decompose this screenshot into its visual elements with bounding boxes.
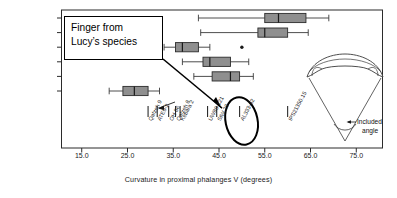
- callout-line-2: Lucy’s species: [71, 35, 157, 49]
- boxplot-pan-paniscus: [194, 72, 253, 81]
- highlight-ellipse-al333-92: [221, 94, 262, 148]
- phalanx-bone-outline: [307, 54, 383, 77]
- box-iqr: [123, 86, 148, 95]
- y-axis-labels: HylobatidaePongoGorillaPan troglodytesPa…: [0, 0, 63, 198]
- included-angle-label-line1: Included: [357, 118, 382, 126]
- box-iqr: [203, 57, 230, 66]
- x-tick-label-2: 35.0: [166, 152, 180, 159]
- angle-arrow-head: [347, 120, 352, 124]
- wedge-left-line: [309, 78, 345, 141]
- x-tick-label-4: 55.0: [258, 152, 272, 159]
- x-tick-label-5: 65.0: [304, 152, 318, 159]
- box-iqr: [265, 13, 306, 22]
- outlier-0: [240, 46, 243, 49]
- boxplot-gorilla: [164, 43, 243, 52]
- box-iqr: [212, 72, 239, 81]
- figure-container: HylobatidaePongoGorillaPan troglodytesPa…: [0, 0, 397, 198]
- included-angle-label-line2: angle: [362, 127, 378, 135]
- callout-box: Finger from Lucy’s species: [64, 16, 163, 60]
- x-tick-label-0: 15.0: [75, 152, 89, 159]
- boxplot-hylobatidae: [198, 13, 328, 22]
- boxplot-pongo: [201, 28, 309, 37]
- x-tick-label-1: 25.0: [121, 152, 135, 159]
- x-tick-label-3: 45.0: [212, 152, 226, 159]
- boxplot-homo-sapiens: [109, 86, 159, 95]
- box-iqr: [176, 43, 199, 52]
- box-iqr: [258, 28, 288, 37]
- callout-line-1: Finger from: [71, 21, 157, 35]
- x-tick-label-6: 75.0: [349, 152, 363, 159]
- x-axis-title: Curvature in proximal phalanges V (degre…: [0, 175, 397, 184]
- boxplot-pan-troglodytes: [182, 57, 248, 66]
